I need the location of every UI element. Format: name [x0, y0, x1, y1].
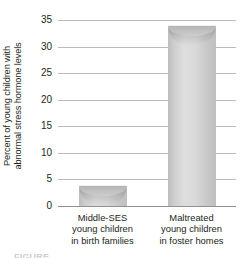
y-tick-label-10: 10: [41, 148, 52, 158]
bar-0[interactable]: [79, 185, 127, 206]
gridline-35: [58, 20, 236, 21]
x-tick-label-1-line-2: in foster homes: [132, 235, 252, 246]
y-tick-label-20: 20: [41, 95, 52, 105]
x-tick-label-1: Maltreatedyoung childrenin foster homes: [132, 212, 252, 246]
y-tick-label-30: 30: [41, 42, 52, 52]
chart-figure: Percent of young children with abnormal …: [0, 0, 251, 258]
y-tick-label-15: 15: [41, 121, 52, 131]
bar-1[interactable]: [168, 25, 216, 206]
y-tick-label-35: 35: [41, 15, 52, 25]
y-axis-label-line-1: Percent of young children with: [2, 42, 14, 169]
x-tick-label-1-line-0: Maltreated: [132, 212, 252, 223]
plot-area: 05101520253035: [58, 20, 236, 206]
y-axis-label: Percent of young children with abnormal …: [0, 6, 26, 206]
x-tick-label-1-line-1: young children: [132, 223, 252, 234]
y-tick-label-5: 5: [46, 174, 52, 184]
figure-caption-fragment: FIGURE: [14, 253, 49, 258]
y-axis-label-line-2: abnormal stress hormone levels: [13, 42, 25, 169]
y-tick-label-25: 25: [41, 68, 52, 78]
y-tick-label-0: 0: [46, 201, 52, 211]
